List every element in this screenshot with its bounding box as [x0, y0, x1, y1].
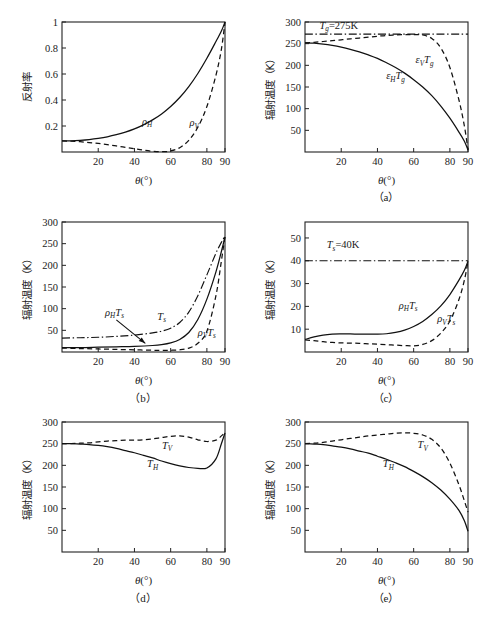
x-tick-label: 40	[129, 556, 140, 567]
curve-t-s	[62, 236, 225, 338]
y-tick-label: 250	[42, 238, 58, 249]
curve-label: TV	[418, 439, 430, 453]
x-tick-label: 60	[408, 356, 419, 367]
plot-frame	[62, 22, 225, 152]
y-tick-label: 1	[53, 17, 58, 28]
y-tick-label: 50	[48, 525, 59, 536]
y-tick-label: 100	[42, 303, 58, 314]
subplot-panel-_a: 204060809050100150200250300θ(°)辐射温度（K）εV…	[259, 8, 482, 198]
plot-frame	[305, 422, 468, 552]
annotation-label: Ts=40K	[327, 239, 360, 253]
subplot-caption-d: （d）	[113, 589, 173, 605]
y-tick-label: 300	[285, 417, 301, 428]
x-tick-label: 60	[408, 156, 419, 167]
x-tick-label: 90	[463, 156, 474, 167]
x-tick-label: 80	[445, 556, 456, 567]
y-tick-label: 30	[291, 278, 302, 289]
y-tick-label: 300	[42, 417, 58, 428]
y-tick-label: 0.6	[45, 69, 58, 80]
y-tick-label: 50	[291, 233, 302, 244]
x-tick-label: 90	[220, 556, 231, 567]
y-tick-label: 250	[285, 38, 301, 49]
x-tick-label: 20	[93, 556, 104, 567]
y-tick-label: 300	[285, 17, 301, 28]
x-axis-title: θ(°)	[135, 374, 152, 387]
curve-label: ρV	[188, 117, 200, 131]
x-tick-label: 80	[445, 356, 456, 367]
y-tick-label: 200	[42, 260, 58, 271]
curve-t-h	[62, 433, 225, 469]
curve-t-v	[305, 433, 468, 512]
subplot-caption-b: （b）	[113, 389, 173, 405]
y-tick-label: 0.8	[45, 43, 58, 54]
x-tick-label: 60	[408, 556, 419, 567]
y-tick-label: 100	[285, 103, 301, 114]
y-tick-label: 250	[285, 438, 301, 449]
y-tick-label: 200	[285, 460, 301, 471]
y-axis-title: 辐射温度（K）	[264, 454, 276, 521]
x-tick-label: 60	[165, 356, 176, 367]
curve--v-t-g	[305, 35, 468, 150]
x-tick-label: 40	[129, 156, 140, 167]
x-tick-label: 80	[202, 356, 213, 367]
x-axis-title: θ(°)	[378, 174, 395, 187]
x-axis-title: θ(°)	[378, 574, 395, 587]
y-tick-label: 0.2	[45, 121, 58, 132]
y-tick-label: 20	[291, 301, 302, 312]
y-tick-label: 50	[291, 525, 302, 536]
curve-t-v	[62, 432, 225, 443]
curve-label: ρHTs	[398, 300, 418, 314]
x-tick-label: 20	[93, 156, 104, 167]
x-tick-label: 90	[463, 356, 474, 367]
y-tick-label: 300	[42, 217, 58, 228]
x-tick-label: 90	[463, 556, 474, 567]
x-tick-label: 40	[372, 156, 383, 167]
y-tick-label: 10	[291, 324, 302, 335]
curve-label: ρHTs	[104, 307, 124, 321]
subplot-caption-c: （c）	[356, 389, 416, 405]
y-tick-label: 100	[285, 503, 301, 514]
x-tick-label: 90	[220, 356, 231, 367]
y-axis-title: 辐射温度（K）	[264, 54, 276, 121]
y-tick-label: 150	[42, 482, 58, 493]
plot-frame	[305, 22, 468, 152]
curve--v	[62, 22, 225, 152]
x-axis-title: θ(°)	[135, 174, 152, 187]
y-tick-label: 150	[285, 482, 301, 493]
x-tick-label: 80	[202, 556, 213, 567]
y-tick-label: 150	[285, 82, 301, 93]
x-tick-label: 40	[372, 356, 383, 367]
y-tick-label: 0.4	[45, 95, 59, 106]
x-tick-label: 20	[336, 556, 347, 567]
subplot-caption-a: （a）	[356, 188, 416, 204]
y-tick-label: 100	[42, 503, 58, 514]
curve-label: TV	[162, 440, 174, 454]
y-tick-label: 50	[48, 325, 59, 336]
curve-label: Ts	[157, 311, 166, 325]
subplot-panel-_e: 204060809050100150200250300θ(°)辐射温度（K）TV…	[259, 408, 482, 598]
curve-label: ρH	[141, 116, 153, 130]
x-tick-label: 90	[220, 156, 231, 167]
y-tick-label: 200	[42, 460, 58, 471]
plot-frame	[62, 422, 225, 552]
x-axis-title: θ(°)	[135, 574, 152, 587]
curve-t-h	[305, 444, 468, 532]
y-axis-title: 反射率	[21, 72, 33, 102]
curve--h-t-g	[305, 43, 468, 150]
x-tick-label: 40	[129, 356, 140, 367]
x-tick-label: 40	[372, 556, 383, 567]
y-axis-title: 辐射温度（K）	[264, 254, 276, 321]
curve--h-t-s	[305, 261, 468, 339]
subplot-caption-e: （e）	[356, 589, 416, 605]
subplot-panel-_c: 20406080901020304050θ(°)辐射温度（K）ρHTsρVTsT…	[259, 208, 482, 398]
y-tick-label: 200	[285, 60, 301, 71]
curve-label: ρVTs	[197, 327, 216, 341]
y-tick-label: 250	[42, 438, 58, 449]
x-tick-label: 20	[336, 156, 347, 167]
figure-container: 20406080900.20.40.60.81θ(°)反射率ρHρV204060…	[0, 0, 490, 628]
y-axis-title: 辐射温度（K）	[21, 454, 33, 521]
x-tick-label: 60	[165, 556, 176, 567]
x-axis-title: θ(°)	[378, 374, 395, 387]
y-axis-title: 辐射温度（K）	[21, 254, 33, 321]
subplot-panel-_b: 204060809050100150200250300θ(°)辐射温度（K）Ts…	[16, 208, 239, 398]
